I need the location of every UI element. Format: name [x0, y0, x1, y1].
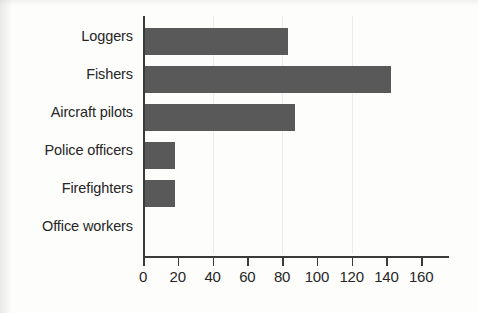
x-tick-140	[386, 258, 388, 266]
category-label-0: Loggers	[0, 28, 138, 45]
bar-police-officers	[144, 142, 175, 169]
x-tick-160	[421, 258, 423, 266]
bar-loggers	[144, 28, 288, 55]
bar-firefighters	[144, 180, 175, 207]
x-tick-100	[317, 258, 319, 266]
category-label-1: Fishers	[0, 66, 138, 83]
category-label-5: Office workers	[0, 218, 138, 235]
plot-area: 020406080100120140160	[143, 16, 449, 258]
x-tick-40	[213, 258, 215, 266]
category-label-2: Aircraft pilots	[0, 104, 138, 121]
category-axis: Loggers Fishers Aircraft pilots Police o…	[0, 24, 138, 232]
bars-layer	[143, 16, 449, 258]
x-tick-60	[247, 258, 249, 266]
x-tick-20	[178, 258, 180, 266]
x-tick-120	[352, 258, 354, 266]
x-tick-0	[143, 258, 145, 266]
x-axis-line	[143, 256, 449, 258]
x-tick-label-160: 160	[394, 268, 448, 286]
scan-edge-top	[0, 0, 478, 6]
bar-aircraft-pilots	[144, 104, 295, 131]
category-label-4: Firefighters	[0, 180, 138, 197]
bar-fishers	[144, 66, 391, 93]
y-axis-line	[143, 16, 145, 258]
category-label-3: Police officers	[0, 142, 138, 159]
x-tick-80	[282, 258, 284, 266]
bar-chart: Loggers Fishers Aircraft pilots Police o…	[0, 0, 478, 313]
